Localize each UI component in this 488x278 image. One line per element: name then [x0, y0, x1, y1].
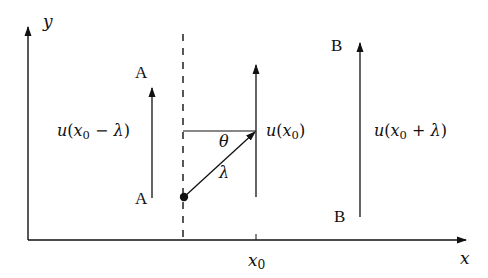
x0-sub: 0: [258, 258, 266, 272]
y-axis-label: y: [43, 13, 53, 30]
lambda-label: λ: [219, 165, 229, 181]
x-sub: 0: [83, 128, 90, 142]
x0-var: x: [248, 250, 258, 270]
vector-left-label: u(x0 − λ): [57, 123, 130, 141]
paren-close: ): [124, 121, 130, 140]
x0-tick-label: x0: [248, 252, 265, 271]
x-sub: 0: [292, 128, 299, 142]
point-A-bottom: A: [135, 190, 147, 207]
u-symbol: u: [57, 121, 67, 140]
paren-close: ): [441, 121, 447, 140]
lambda-symbol: λ: [114, 121, 124, 140]
paren-close: ): [299, 121, 305, 140]
x-var: x: [391, 121, 400, 140]
x-var: x: [283, 121, 292, 140]
origin-dot: [180, 193, 188, 201]
vector-right-label: u(x0 + λ): [374, 123, 447, 141]
theta-label: θ: [219, 134, 229, 150]
point-B-top: B: [331, 37, 342, 54]
point-B-bottom: B: [334, 208, 345, 225]
lambda-symbol: λ: [431, 121, 441, 140]
vector-center-label: u(x0): [266, 123, 305, 141]
x-axis-label: x: [460, 250, 470, 267]
u-symbol: u: [266, 121, 276, 140]
x-sub: 0: [400, 128, 407, 142]
u-symbol: u: [374, 121, 384, 140]
point-A-top: A: [135, 64, 147, 81]
minus-op: −: [90, 121, 114, 140]
plus-op: +: [407, 121, 431, 140]
x-var: x: [74, 121, 83, 140]
